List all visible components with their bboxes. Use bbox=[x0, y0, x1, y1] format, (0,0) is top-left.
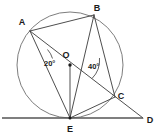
segment-chord-C-E bbox=[70, 97, 115, 118]
segment-chord-A-B bbox=[30, 15, 94, 31]
segment-chord-B-C bbox=[94, 15, 115, 97]
point-label-B: B bbox=[94, 3, 101, 13]
point-E-dot bbox=[69, 117, 72, 120]
point-label-O: O bbox=[62, 50, 69, 60]
point-label-E: E bbox=[67, 124, 73, 134]
angle-arc-at-A bbox=[48, 50, 53, 59]
segment-line-A-C-D bbox=[30, 31, 143, 118]
center-point-O-dot bbox=[68, 63, 71, 66]
angle-label-at-A: 20° bbox=[44, 59, 55, 68]
point-label-C: C bbox=[118, 91, 125, 101]
point-label-D: D bbox=[147, 115, 154, 125]
angle-label-at-C: 40° bbox=[88, 62, 99, 71]
geometry-canvas: A B C E O D 20° 40° bbox=[0, 0, 162, 137]
segment-chord-A-E bbox=[30, 31, 70, 118]
point-label-A: A bbox=[19, 17, 26, 27]
geometry-figure: A B C E O D 20° 40° bbox=[0, 0, 162, 137]
